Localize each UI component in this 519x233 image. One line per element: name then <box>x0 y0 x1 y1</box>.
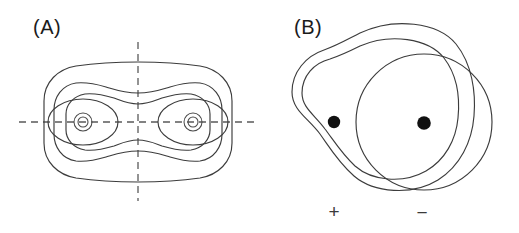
contour-level-1-outer-separatrix <box>292 24 474 191</box>
panel-a-label: (A) <box>33 17 61 37</box>
negative-charge-label: − <box>410 203 434 222</box>
panel-a: (A) <box>0 0 262 233</box>
positive-charge-label: + <box>322 202 346 221</box>
contour-level-2-inner-separatrix <box>302 39 459 179</box>
panel-b-label: (B) <box>294 17 322 37</box>
panel-b: (B) + − <box>262 0 519 233</box>
figure-root: (A) (B) + − <box>0 0 519 233</box>
positive-charge-dot <box>328 116 340 128</box>
negative-charge-dot <box>417 116 431 130</box>
